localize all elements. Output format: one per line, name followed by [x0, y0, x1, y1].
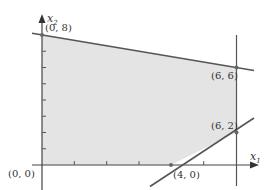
- vertex-0-8: [40, 33, 44, 37]
- feasible-region: [42, 35, 236, 165]
- x-axis-label: x1: [250, 150, 261, 165]
- label-origin: (0, 0): [8, 168, 35, 179]
- label-6-6: (6, 6): [211, 70, 238, 81]
- feasible-region-diagram: x2 x1 (0, 8) (6, 6) (6, 2) (4, 0) (0, 0): [0, 0, 274, 190]
- vertex-6-2: [235, 131, 239, 135]
- vertex-4-0: [169, 163, 173, 167]
- label-6-2: (6, 2): [211, 120, 238, 131]
- label-0-8: (0, 8): [45, 22, 72, 33]
- vertex-6-6: [235, 66, 239, 70]
- label-4-0: (4, 0): [173, 169, 200, 180]
